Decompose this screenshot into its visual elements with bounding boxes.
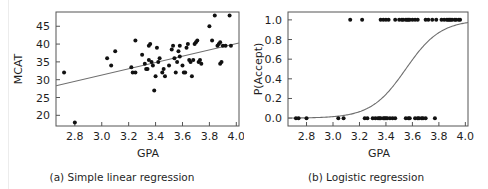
data-point bbox=[213, 14, 217, 18]
clipped-data bbox=[288, 18, 468, 120]
panel-b-ylabel: P(Accept) bbox=[252, 43, 265, 96]
x-tick-label: 4.0 bbox=[228, 130, 244, 143]
y-tick-label: 0.0 bbox=[265, 112, 283, 125]
y-tick-label: 0.2 bbox=[265, 92, 283, 105]
data-point bbox=[360, 18, 364, 22]
data-point bbox=[228, 14, 232, 18]
data-point bbox=[424, 116, 428, 120]
x-tick-label: 2.8 bbox=[66, 130, 84, 143]
regression-line bbox=[56, 43, 239, 86]
y-tick-label: 0.6 bbox=[265, 53, 283, 66]
y-tick-label: 30 bbox=[36, 74, 50, 87]
x-tick-label: 3.2 bbox=[351, 130, 369, 143]
data-point bbox=[109, 63, 113, 67]
data-point bbox=[178, 44, 182, 48]
x-tick-label: 3.0 bbox=[93, 130, 111, 143]
data-point bbox=[185, 46, 189, 50]
data-point bbox=[220, 60, 224, 64]
data-point bbox=[162, 67, 166, 71]
data-point bbox=[175, 60, 179, 64]
x-tick-label: 2.8 bbox=[298, 130, 316, 143]
data-point bbox=[171, 44, 175, 48]
data-point bbox=[393, 18, 397, 22]
plot-frame bbox=[288, 12, 468, 126]
data-point bbox=[186, 42, 190, 46]
data-point bbox=[458, 18, 462, 22]
data-point bbox=[342, 116, 346, 120]
y-tick-label: 45 bbox=[36, 20, 50, 33]
panel-b-xlabel: GPA bbox=[368, 147, 390, 160]
clipped-data bbox=[56, 14, 239, 125]
y-tick-label: 35 bbox=[36, 56, 50, 69]
data-point bbox=[146, 67, 150, 71]
panel-simple-linear-regression: 2.83.03.23.43.63.84.0202530354045 MCAT G… bbox=[0, 0, 244, 189]
data-point bbox=[426, 18, 430, 22]
panel-a-caption: (a) Simple linear regression bbox=[50, 171, 195, 183]
panel-logistic-regression: 2.83.03.23.43.63.84.00.00.20.40.60.81.0 … bbox=[244, 0, 488, 189]
data-point bbox=[210, 39, 214, 43]
data-point bbox=[62, 71, 66, 75]
data-point bbox=[150, 60, 154, 64]
data-point bbox=[151, 63, 155, 67]
panel-b-plot-area: 2.83.03.23.43.63.84.00.00.20.40.60.81.0 bbox=[265, 12, 475, 143]
data-point bbox=[140, 53, 144, 57]
data-point bbox=[174, 71, 178, 75]
data-point bbox=[430, 18, 434, 22]
y-tick-label: 25 bbox=[36, 92, 50, 105]
data-point bbox=[154, 74, 158, 78]
data-point bbox=[408, 116, 412, 120]
data-point bbox=[105, 56, 109, 60]
data-point bbox=[433, 116, 437, 120]
panel-a-ylabel: MCAT bbox=[12, 53, 25, 84]
y-tick-label: 0.8 bbox=[265, 34, 283, 47]
data-point bbox=[152, 88, 156, 92]
data-point bbox=[387, 18, 391, 22]
data-point bbox=[229, 44, 233, 48]
data-point bbox=[434, 18, 438, 22]
panel-a-svg: 2.83.03.23.43.63.84.0202530354045 MCAT G… bbox=[0, 0, 244, 189]
data-point bbox=[190, 74, 194, 78]
data-point bbox=[416, 18, 420, 22]
panel-b-svg: 2.83.03.23.43.63.84.00.00.20.40.60.81.0 … bbox=[244, 0, 488, 189]
data-point bbox=[160, 71, 164, 75]
data-point bbox=[297, 116, 301, 120]
data-point bbox=[183, 71, 187, 75]
data-point bbox=[113, 49, 117, 53]
x-tick-label: 3.8 bbox=[430, 130, 448, 143]
data-point bbox=[178, 55, 182, 59]
data-point bbox=[73, 120, 77, 124]
data-point bbox=[365, 116, 369, 120]
x-tick-label: 3.4 bbox=[377, 130, 395, 143]
data-point bbox=[133, 71, 137, 75]
data-point bbox=[195, 39, 199, 43]
x-tick-label: 3.4 bbox=[147, 130, 165, 143]
data-point bbox=[393, 116, 397, 120]
x-tick-label: 3.6 bbox=[174, 130, 192, 143]
x-tick-label: 3.0 bbox=[324, 130, 342, 143]
data-point bbox=[180, 63, 184, 67]
y-tick-label: 1.0 bbox=[265, 14, 283, 27]
data-point bbox=[336, 116, 340, 120]
y-tick-label: 40 bbox=[36, 38, 50, 51]
data-point bbox=[129, 65, 133, 69]
figure-container: 2.83.03.23.43.63.84.0202530354045 MCAT G… bbox=[0, 0, 488, 189]
data-point bbox=[172, 56, 176, 60]
x-tick-label: 3.8 bbox=[201, 130, 219, 143]
data-point bbox=[158, 56, 162, 60]
x-tick-label: 3.6 bbox=[404, 130, 422, 143]
data-point bbox=[199, 62, 203, 66]
data-point bbox=[198, 58, 202, 62]
panel-a-plot-area: 2.83.03.23.43.63.84.0202530354045 bbox=[36, 12, 244, 143]
logistic-curve bbox=[288, 23, 468, 118]
x-tick-label: 4.0 bbox=[457, 130, 475, 143]
y-tick-label: 20 bbox=[36, 109, 50, 122]
data-point bbox=[191, 58, 195, 62]
y-tick-label: 0.4 bbox=[265, 73, 283, 86]
x-tick-label: 3.2 bbox=[120, 130, 138, 143]
data-point bbox=[156, 60, 160, 64]
data-point bbox=[143, 62, 147, 66]
data-point bbox=[176, 49, 180, 53]
data-point bbox=[163, 74, 167, 78]
data-point bbox=[170, 47, 174, 51]
panel-b-caption: (b) Logistic regression bbox=[308, 171, 424, 183]
